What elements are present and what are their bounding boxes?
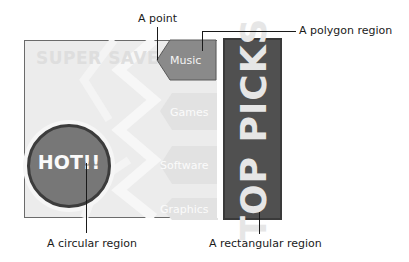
callout-circle-label: A circular region bbox=[47, 237, 137, 250]
hot-label: HOT!! bbox=[30, 151, 108, 173]
menu-item-games[interactable]: Games bbox=[170, 106, 208, 119]
callout-polygon-line-v bbox=[202, 31, 203, 51]
top-picks-label: TOP PICKS bbox=[232, 17, 273, 240]
menu-item-software[interactable]: Software bbox=[160, 159, 209, 172]
callout-rectangle-label: A rectangular region bbox=[209, 237, 322, 250]
hot-circle-button[interactable]: HOT!! bbox=[27, 124, 111, 208]
callout-polygon-label: A polygon region bbox=[299, 24, 392, 37]
callout-point-label: A point bbox=[138, 12, 177, 25]
callout-rectangle-line bbox=[259, 212, 260, 234]
callout-point-line bbox=[157, 27, 158, 60]
callout-circle-line bbox=[86, 163, 87, 233]
menu-item-graphics[interactable]: Graphics bbox=[160, 203, 209, 216]
top-picks-banner[interactable]: TOP PICKS bbox=[223, 38, 282, 220]
menu-item-music[interactable]: Music bbox=[170, 54, 201, 67]
callout-polygon-line-h bbox=[202, 31, 296, 32]
